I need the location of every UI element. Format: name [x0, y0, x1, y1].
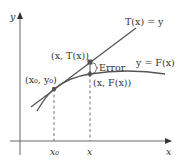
- tangent-curve-label: T(x) = y: [125, 16, 164, 27]
- error-label: Error: [99, 62, 126, 73]
- tangent-point-label: (x, T(x)): [51, 50, 89, 61]
- function-point-label: (x, F(x)): [93, 77, 131, 88]
- function-curve-label: y = F(x): [135, 57, 175, 68]
- x-tick-label: x: [87, 146, 93, 157]
- x-axis-label: x: [166, 146, 172, 157]
- base-point: [52, 87, 56, 91]
- y-axis-arrow-icon: [17, 12, 23, 19]
- base-point-label: (x₀, y₀): [25, 74, 57, 85]
- x0-tick-label: x₀: [50, 146, 59, 157]
- tangent-approximation-diagram: y x T(x) = y y = F(x) (x, T(x)) (x, F(x)…: [0, 0, 182, 165]
- y-axis-label: y: [9, 11, 16, 22]
- x-axis-arrow-icon: [165, 138, 172, 144]
- error-brace-icon: [93, 63, 98, 73]
